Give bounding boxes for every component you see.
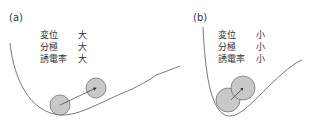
property-name: 分極 <box>218 41 256 53</box>
property-value: 小 <box>256 53 265 65</box>
property-row: 分極 小 <box>218 41 265 53</box>
property-row: 誘電率 小 <box>218 53 265 65</box>
property-value: 大 <box>78 41 87 53</box>
property-row: 誘電率 大 <box>40 53 87 65</box>
property-value: 小 <box>256 41 265 53</box>
property-name: 変位 <box>40 29 78 41</box>
potential-curve-a-tail <box>156 66 180 75</box>
property-row: 分極 大 <box>40 41 87 53</box>
property-name: 誘電率 <box>218 53 256 65</box>
property-row: 変位 小 <box>218 29 265 41</box>
property-name: 誘電率 <box>40 53 78 65</box>
property-value: 大 <box>78 53 87 65</box>
property-name: 変位 <box>218 29 256 41</box>
panel-label-a: (a) <box>9 12 23 23</box>
property-table-b: 変位 小 分極 小 誘電率 小 <box>218 29 265 65</box>
property-value: 小 <box>256 29 265 41</box>
property-table-a: 変位 大 分極 大 誘電率 大 <box>40 29 87 65</box>
property-row: 変位 大 <box>40 29 87 41</box>
panel-label-b: (b) <box>193 12 207 23</box>
property-value: 大 <box>78 29 87 41</box>
property-name: 分極 <box>40 41 78 53</box>
